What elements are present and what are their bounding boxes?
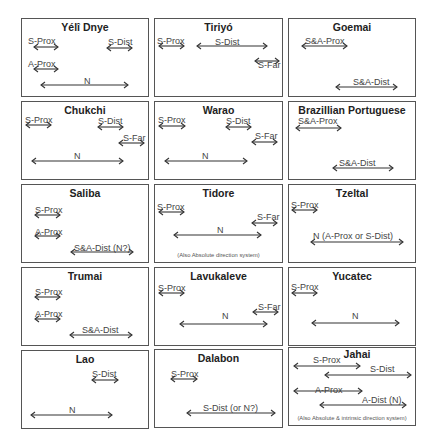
double-arrow-icon [291,206,318,214]
double-arrow-icon [196,42,268,50]
double-arrow-icon [293,387,363,395]
double-arrow-icon [70,248,134,256]
double-arrow-icon [293,362,361,370]
panel-title: Dalabon [155,352,282,364]
panel-title: Goemai [289,21,415,33]
panel-title: Brazillian Portuguese [289,104,415,116]
double-arrow-icon [164,157,248,165]
double-arrow-icon [295,124,342,132]
double-arrow-icon [33,65,59,73]
double-arrow-icon [33,43,59,51]
panel-title: Yélî Dnye [22,21,148,33]
double-arrow-icon [106,44,133,52]
double-arrow-icon [158,122,186,130]
double-arrow-icon [311,319,400,327]
double-arrow-icon [40,81,129,89]
double-arrow-icon [118,139,145,147]
panel-dalabon: DalabonS-ProxS-Dist (or N?) [154,349,283,428]
panel-yucatec: YucatecS-ProxN [288,267,416,346]
panel-jahai: JahaiS-ProxS-DistA-ProxA-Dist (N)(Also A… [288,347,416,426]
double-arrow-icon [170,375,198,383]
panel-title: Lao [22,353,148,365]
double-arrow-icon [254,57,280,65]
panel-title: Lavukaleve [155,270,282,282]
panel-tiriyo: TiriyóS-ProxS-DistS-Far [154,18,283,97]
double-arrow-icon [335,83,398,91]
double-arrow-icon [179,320,268,328]
double-arrow-icon [34,315,61,323]
panel-tidore: TidoreS-ProxS-FarN(Also Absolute directi… [154,184,283,263]
panel-title: Tidore [155,187,282,199]
panel-lao: LaoS-DistN [21,350,149,429]
double-arrow-icon [173,231,262,239]
double-arrow-icon [34,232,61,240]
double-arrow-icon [69,331,133,339]
double-arrow-icon [301,42,348,50]
double-arrow-icon [31,157,124,165]
panel-chukchi: ChukchiS-ProxS-DistS-FarN [21,101,149,180]
double-arrow-icon [324,371,412,379]
double-arrow-icon [25,121,52,129]
double-arrow-icon [34,293,61,301]
panel-title: Trumai [22,270,148,282]
double-arrow-icon [158,289,185,297]
panel-warao: WaraoS-ProxS-DistS-FarN [154,101,283,180]
panel-lavukaleve: LavukaleveS-ProxS-FarN [154,267,283,346]
panel-yeli-dnye: Yélî DnyeS-ProxS-DistA-ProxN [21,18,149,97]
double-arrow-icon [158,42,185,50]
double-arrow-icon [30,411,113,419]
double-arrow-icon [91,376,119,384]
panel-title: Tiriyó [155,21,282,33]
panel-brazilian-portuguese: Brazillian PortugueseS&A-ProxS&A-Dist [288,101,416,180]
double-arrow-icon [251,219,278,227]
double-arrow-icon [186,409,276,417]
panel-trumai: TrumaiS-ProxA-ProxS&A-Dist [21,267,149,346]
double-arrow-icon [34,211,61,219]
panel-saliba: SalibaS-ProxA-ProxS&A-Dist (N?) [21,184,149,263]
double-arrow-icon [251,138,278,146]
double-arrow-icon [225,123,252,131]
panel-title: Tzeltal [289,187,415,199]
panel-tzeltal: TzeltalS-ProxN (A-Prox or S-Dist) [288,184,416,263]
double-arrow-icon [291,289,318,297]
double-arrow-icon [252,308,279,316]
panel-title: Saliba [22,187,148,199]
double-arrow-icon [310,238,404,246]
double-arrow-icon [319,401,407,409]
panel-note: (Also Absolute direction system) [155,252,282,258]
double-arrow-icon [332,164,394,172]
double-arrow-icon [158,208,185,216]
panel-title: Yucatec [289,270,415,282]
double-arrow-icon [97,123,124,131]
panel-note: (Also Absolute & intrinsic direction sys… [289,415,415,421]
panel-goemai: GoemaiS&A-ProxS&A-Dist [288,18,416,97]
